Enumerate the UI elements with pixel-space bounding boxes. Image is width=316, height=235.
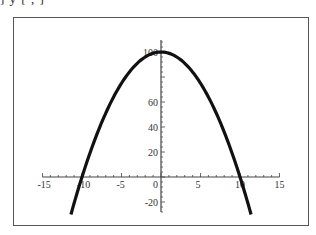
y-tick-label: 40	[148, 122, 158, 133]
x-tick-label: -15	[38, 179, 51, 190]
x-tick-label: -5	[117, 179, 125, 190]
y-tick-label: -20	[145, 197, 158, 208]
parabola-chart: -15-10-5051015-20204060100	[0, 0, 316, 235]
x-tick-label: 0	[153, 179, 158, 190]
x-tick-label: 15	[275, 179, 285, 190]
y-tick-label: 20	[148, 147, 158, 158]
x-tick-label: 5	[196, 179, 201, 190]
y-tick-label: 60	[148, 97, 158, 108]
